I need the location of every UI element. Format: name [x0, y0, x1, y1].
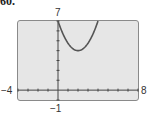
plot-area: [0, 0, 147, 116]
axes: [18, 21, 138, 100]
parabola-curve: [58, 21, 98, 51]
